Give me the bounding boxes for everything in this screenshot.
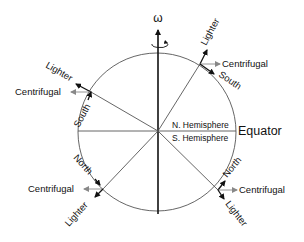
upper-right-forces: Lighter Centrifugal South <box>198 16 268 91</box>
radius-upper-left <box>91 92 158 131</box>
upper-left-forces: Lighter Centrifugal South <box>15 59 92 129</box>
lower-left-north-label: North <box>72 152 96 177</box>
lower-left-centrifugal-label: Centrifugal <box>28 183 74 194</box>
lower-right-centrifugal-label: Centrifugal <box>239 184 285 195</box>
upper-left-south-label: South <box>71 102 92 129</box>
north-hemisphere-label: N. Hemisphere <box>172 120 229 130</box>
radius-lower-left <box>103 131 158 189</box>
south-hemisphere-label: S. Hemisphere <box>172 133 228 143</box>
lower-left-forces: North Centrifugal Lighter <box>28 152 103 228</box>
equator-label: Equator <box>238 124 282 138</box>
upper-right-centrifugal-label: Centrifugal <box>222 58 268 69</box>
lower-right-north-label: North <box>220 154 243 179</box>
lower-left-lighter-label: Lighter <box>62 199 90 228</box>
omega-label: ω <box>153 11 162 25</box>
upper-right-lighter-label: Lighter <box>198 16 221 47</box>
lower-right-forces: North Centrifugal Lighter <box>218 154 285 228</box>
upper-right-south-label: South <box>217 69 244 92</box>
upper-left-centrifugal-label: Centrifugal <box>15 86 61 97</box>
lower-right-lighter-label: Lighter <box>223 198 250 228</box>
rotating-earth-diagram: ω N. Hemisphere S. Hemisphere Equator Li… <box>0 0 304 242</box>
upper-left-lighter-label: Lighter <box>44 59 75 83</box>
